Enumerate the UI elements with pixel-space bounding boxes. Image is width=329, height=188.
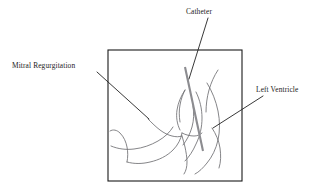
label-left-ventricle: Left Ventricle (256, 85, 299, 94)
illustration-frame (108, 50, 242, 181)
label-mitral-regurgitation: Mitral Regurgitation (12, 61, 75, 70)
diagram-canvas: Mitral Regurgitation Catheter Left Ventr… (0, 0, 329, 188)
label-catheter: Catheter (186, 7, 212, 16)
medical-diagram: Mitral Regurgitation Catheter Left Ventr… (0, 0, 329, 188)
